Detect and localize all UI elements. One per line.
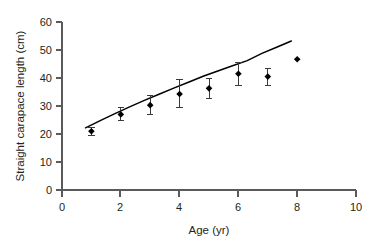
data-point-marker <box>147 102 154 109</box>
x-axis-ticks: 0 2 4 6 8 10 <box>59 190 362 213</box>
x-tick-label-8: 8 <box>294 201 300 213</box>
data-point-marker <box>265 73 272 80</box>
data-point-marker <box>294 56 301 63</box>
x-tick-label-0: 0 <box>59 201 65 213</box>
chart-figure: 60 50 40 30 20 10 0 0 2 4 6 8 10 Age (yr… <box>0 0 377 245</box>
y-tick-label-60: 60 <box>40 16 52 28</box>
x-axis-title: Age (yr) <box>189 224 230 236</box>
y-tick-label-20: 20 <box>40 128 52 140</box>
y-tick-label-50: 50 <box>40 44 52 56</box>
error-bars-group <box>88 63 271 136</box>
data-point-marker <box>235 71 242 78</box>
y-tick-label-30: 30 <box>40 100 52 112</box>
x-tick-label-4: 4 <box>176 201 182 213</box>
y-tick-label-40: 40 <box>40 72 52 84</box>
data-point-marker <box>88 128 95 135</box>
x-tick-label-6: 6 <box>235 201 241 213</box>
axes-group <box>62 22 356 190</box>
data-point-marker <box>176 91 183 98</box>
y-axis-title: Straight carapace length (cm) <box>14 30 26 181</box>
y-tick-label-10: 10 <box>40 156 52 168</box>
x-tick-label-2: 2 <box>117 201 123 213</box>
y-tick-label-0: 0 <box>46 184 52 196</box>
data-point-marker <box>206 85 213 92</box>
x-tick-label-10: 10 <box>350 201 362 213</box>
y-axis-ticks: 60 50 40 30 20 10 0 <box>40 16 62 196</box>
scatter-plot: 60 50 40 30 20 10 0 0 2 4 6 8 10 Age (yr… <box>0 0 377 245</box>
fitted-growth-curve <box>86 41 292 128</box>
